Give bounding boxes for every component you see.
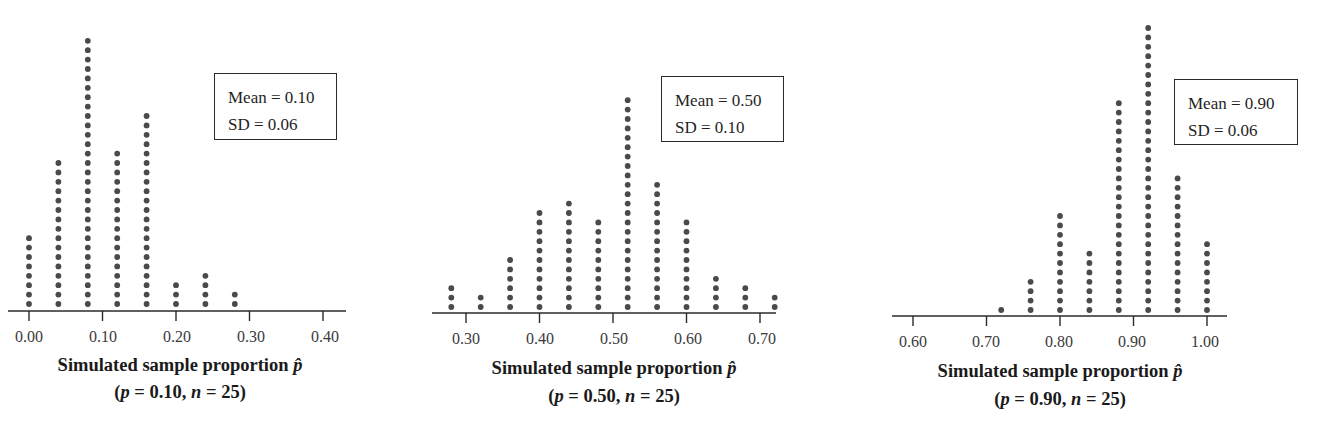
data-dot xyxy=(1116,147,1122,153)
data-dot xyxy=(1145,72,1151,78)
x-tick-label: 0.70 xyxy=(972,333,1000,351)
data-dot xyxy=(1145,147,1151,153)
x-tick-label: 0.80 xyxy=(1045,333,1073,351)
data-dot xyxy=(1057,298,1063,304)
x-axis-subtitle: (p = 0.90, n = 25) xyxy=(994,389,1126,410)
data-dot xyxy=(1145,129,1151,135)
data-dot xyxy=(1087,298,1093,304)
data-dot xyxy=(1087,270,1093,276)
data-dot xyxy=(1145,166,1151,172)
data-dot xyxy=(1145,270,1151,276)
mean-label: Mean = 0.90 xyxy=(1188,90,1297,117)
dot-column xyxy=(1087,251,1093,313)
data-dot xyxy=(1116,213,1122,219)
p-value: = 0.90, xyxy=(1010,389,1071,409)
data-dot xyxy=(1145,260,1151,266)
data-dot xyxy=(1116,100,1122,106)
data-dot xyxy=(1057,260,1063,266)
data-dot xyxy=(1057,223,1063,229)
data-dot xyxy=(1175,279,1181,285)
data-dot xyxy=(1145,279,1151,285)
data-dot xyxy=(1116,279,1122,285)
dotplot-panel-p090: Mean = 0.90 SD = 0.06 0.60 0.70 0.80 0.9… xyxy=(0,0,1317,434)
data-dot xyxy=(1087,260,1093,266)
data-dot xyxy=(1175,241,1181,247)
data-dot xyxy=(1057,270,1063,276)
data-dot xyxy=(1057,307,1063,313)
n-value: = 25) xyxy=(1081,389,1125,409)
data-dot xyxy=(1116,194,1122,200)
sd-label: SD = 0.06 xyxy=(1188,117,1297,144)
data-dot xyxy=(1204,270,1210,276)
data-dot xyxy=(1145,63,1151,69)
data-dot xyxy=(1145,35,1151,41)
data-dot xyxy=(1116,270,1122,276)
data-dot xyxy=(1145,232,1151,238)
data-dot xyxy=(1204,307,1210,313)
data-dot xyxy=(1145,251,1151,257)
stats-box: Mean = 0.90 SD = 0.06 xyxy=(1174,79,1298,145)
data-dot xyxy=(1145,110,1151,116)
data-dot xyxy=(1116,129,1122,135)
data-dot xyxy=(1204,260,1210,266)
data-dot xyxy=(1204,279,1210,285)
data-dot xyxy=(1116,110,1122,116)
data-dot xyxy=(1145,82,1151,88)
data-dot xyxy=(1116,185,1122,191)
data-dot xyxy=(1204,251,1210,257)
x-tick-label: 1.00 xyxy=(1191,333,1219,351)
n-symbol: n xyxy=(1071,389,1081,409)
data-dot xyxy=(1175,176,1181,182)
data-dot xyxy=(1175,288,1181,294)
data-dot xyxy=(1116,204,1122,210)
data-dot xyxy=(1087,251,1093,257)
data-dot xyxy=(1116,119,1122,125)
data-dot xyxy=(1116,138,1122,144)
data-dot xyxy=(1145,288,1151,294)
data-dot xyxy=(1116,223,1122,229)
data-dot xyxy=(1204,288,1210,294)
x-axis-title-text: Simulated sample proportion xyxy=(938,361,1169,381)
data-dot xyxy=(1175,251,1181,257)
data-dot xyxy=(1204,241,1210,247)
data-dot xyxy=(1087,307,1093,313)
data-dot xyxy=(1145,223,1151,229)
data-dot xyxy=(1028,288,1034,294)
x-axis-title: Simulated sample proportion p̂ xyxy=(938,361,1183,382)
dot-column xyxy=(1204,241,1210,313)
data-dot xyxy=(1145,91,1151,97)
data-dot xyxy=(1116,166,1122,172)
data-dot xyxy=(1175,307,1181,313)
dot-column xyxy=(1145,25,1151,313)
data-dot xyxy=(1145,44,1151,50)
data-dot xyxy=(1116,232,1122,238)
data-dot xyxy=(1145,138,1151,144)
dot-column xyxy=(1116,100,1122,313)
data-dot xyxy=(1145,100,1151,106)
p-hat-symbol: p̂ xyxy=(1173,361,1182,381)
data-dot xyxy=(1116,157,1122,163)
data-dot xyxy=(1145,176,1151,182)
data-dot xyxy=(1057,279,1063,285)
data-dot xyxy=(1145,194,1151,200)
data-dot xyxy=(1087,288,1093,294)
data-dot xyxy=(1145,185,1151,191)
data-dot xyxy=(1116,241,1122,247)
data-dot xyxy=(1116,176,1122,182)
data-dot xyxy=(1057,288,1063,294)
dot-column xyxy=(1175,176,1181,313)
data-dot xyxy=(1175,213,1181,219)
data-dot xyxy=(1145,157,1151,163)
dot-column xyxy=(1057,213,1063,313)
data-dot xyxy=(1175,204,1181,210)
data-dot xyxy=(1175,223,1181,229)
data-dot xyxy=(1028,279,1034,285)
data-dot xyxy=(1145,53,1151,59)
data-dot xyxy=(1145,25,1151,31)
data-dot xyxy=(1087,279,1093,285)
data-dot xyxy=(1116,288,1122,294)
data-dot xyxy=(1145,298,1151,304)
dot-column xyxy=(1028,279,1034,313)
data-dot xyxy=(1175,270,1181,276)
data-dot xyxy=(1145,241,1151,247)
